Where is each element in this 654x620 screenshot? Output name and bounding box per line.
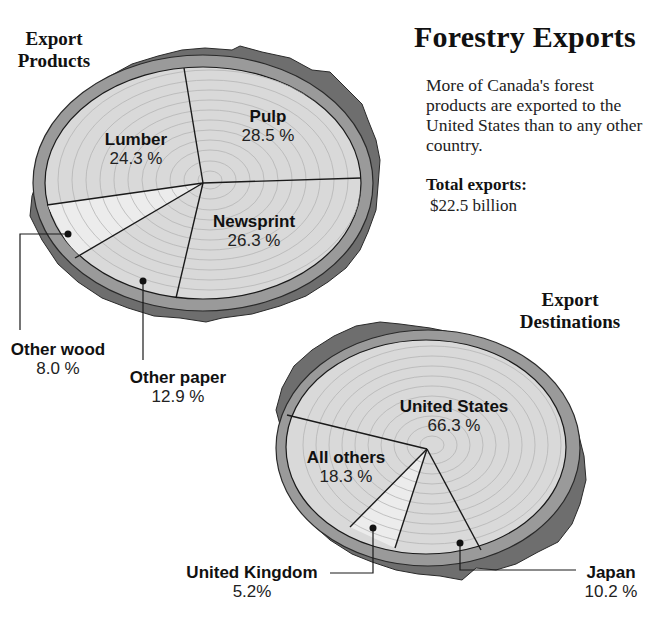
products-title-line2: Products bbox=[6, 50, 102, 72]
label-pulp: Pulp 28.5 % bbox=[228, 107, 308, 145]
uk-marker bbox=[370, 525, 377, 532]
label-other-paper: Other paper 12.9 % bbox=[116, 368, 240, 406]
products-log bbox=[20, 46, 380, 360]
label-united-kingdom: United Kingdom 5.2% bbox=[172, 563, 332, 601]
total-exports-value: $22.5 billion bbox=[430, 196, 517, 216]
label-all-others: All others 18.3 % bbox=[296, 448, 396, 486]
label-lumber: Lumber 24.3 % bbox=[96, 130, 176, 168]
label-newsprint: Newsprint 26.3 % bbox=[196, 212, 312, 250]
products-title-line1: Export bbox=[6, 28, 102, 50]
label-united-states: United States 66.3 % bbox=[384, 397, 524, 435]
total-exports-label: Total exports: bbox=[426, 175, 527, 195]
label-japan: Japan 10.2 % bbox=[576, 563, 646, 601]
destinations-title-line1: Export bbox=[500, 289, 640, 311]
wood bbox=[286, 340, 566, 554]
label-other-wood: Other wood 8.0 % bbox=[0, 340, 116, 378]
other-paper-marker bbox=[140, 278, 147, 285]
description: More of Canada's forest products are exp… bbox=[426, 75, 646, 155]
other-wood-marker bbox=[65, 231, 72, 238]
destinations-title: Export Destinations bbox=[500, 289, 640, 333]
page-title: Forestry Exports bbox=[414, 20, 636, 54]
japan-marker bbox=[457, 540, 464, 547]
destinations-title-line2: Destinations bbox=[500, 311, 640, 333]
products-title: Export Products bbox=[6, 28, 102, 72]
